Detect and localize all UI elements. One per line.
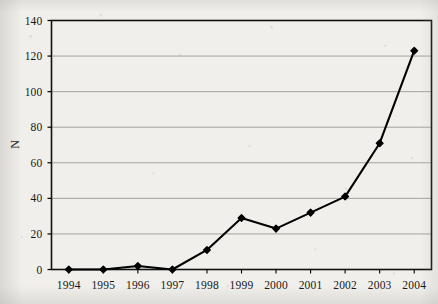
- x-axis-tick-label: 2000: [264, 279, 288, 291]
- data-line: [69, 51, 414, 270]
- data-point-marker: [65, 266, 72, 273]
- x-axis-tick-label: 1998: [195, 279, 219, 291]
- y-axis-tick-label: 40: [0, 192, 43, 204]
- x-axis-tick-label: 1995: [91, 279, 115, 291]
- y-axis-tick-label: 80: [0, 121, 43, 133]
- data-point-marker: [411, 47, 418, 54]
- y-axis-tick-label: 100: [0, 86, 43, 98]
- x-axis-tick-label: 1999: [230, 279, 254, 291]
- data-point-marker: [307, 209, 314, 216]
- data-point-marker: [100, 266, 107, 273]
- data-point-markers: [65, 47, 417, 272]
- y-axis-label: N: [8, 140, 23, 149]
- x-axis-tick-label: 2001: [299, 279, 323, 291]
- data-point-marker: [135, 263, 142, 270]
- y-axis-tick-label: 20: [0, 228, 43, 240]
- x-axis-tick-label: 1994: [57, 279, 81, 291]
- plot-area-frame: [52, 21, 432, 270]
- data-point-marker: [273, 225, 280, 232]
- y-axis-tick-label: 140: [0, 15, 43, 27]
- line-chart: [0, 0, 438, 304]
- y-axis-tick-label: 60: [0, 157, 43, 169]
- x-axis-tick-label: 1997: [161, 279, 185, 291]
- y-axis-tick-label: 0: [0, 264, 43, 276]
- x-axis-tick-label: 2002: [333, 279, 357, 291]
- axes-group: [52, 21, 432, 270]
- x-axis-tick-label: 2004: [402, 279, 426, 291]
- x-axis-tick-label: 2003: [368, 279, 392, 291]
- y-axis-tick-label: 120: [0, 50, 43, 62]
- x-axis-tick-label: 1996: [126, 279, 150, 291]
- gridlines-group: [52, 56, 432, 234]
